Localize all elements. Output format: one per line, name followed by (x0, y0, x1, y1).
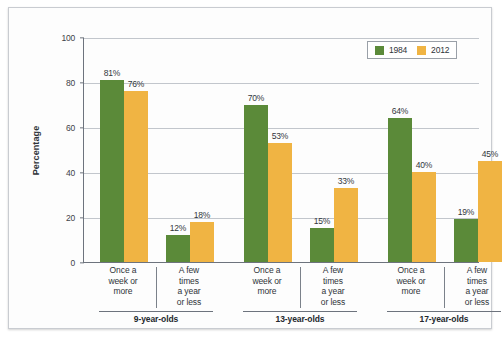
bar-value-label: 33% (338, 176, 354, 186)
legend-label: 2012 (431, 45, 449, 55)
y-tick-mark (80, 172, 84, 173)
legend-item[interactable]: 2012 (417, 45, 449, 55)
group-rule (99, 311, 213, 312)
category-label-line: A few (467, 265, 487, 276)
chart-page: Percentage 020406080100 81%12%70%15%64%1… (0, 0, 502, 339)
bar: 45% (478, 161, 502, 262)
bar-value-label: 18% (194, 210, 210, 220)
group-label-text: 9-year-olds (134, 314, 178, 324)
category-label: A fewtimesa yearor less (301, 265, 365, 307)
bar: 15% (310, 228, 334, 262)
gridline (84, 38, 479, 39)
y-tick-mark (80, 37, 84, 38)
category-label-line: a year (177, 286, 200, 297)
category-label-line: week or (108, 276, 137, 287)
y-tick-mark (80, 217, 84, 218)
category-separator (300, 267, 301, 308)
bar-value-label: 81% (104, 68, 120, 78)
category-label-line: times (323, 276, 343, 287)
chart-frame: Percentage 020406080100 81%12%70%15%64%1… (8, 7, 492, 329)
category-label-line: a year (465, 286, 488, 297)
group-rule (387, 311, 501, 312)
bar: 81% (100, 80, 124, 262)
bar-value-label: 70% (248, 93, 264, 103)
y-tick-label: 20 (66, 213, 75, 223)
bar-value-label: 15% (314, 216, 330, 226)
group-rule (243, 311, 357, 312)
bar-value-label: 40% (416, 160, 432, 170)
bar-value-label: 64% (392, 106, 408, 116)
category-label-line: Once a (398, 265, 425, 276)
group-label-text: 13-year-olds (276, 314, 325, 324)
y-tick-label: 100 (61, 33, 75, 43)
group-label: 9-year-olds (99, 311, 213, 324)
category-labels: Once aweek ormoreA fewtimesa yearor less… (83, 265, 479, 311)
bar: 40% (412, 172, 436, 262)
category-label-line: times (467, 276, 487, 287)
category-separator (156, 267, 157, 308)
category-label-line: times (179, 276, 199, 287)
y-tick-mark (80, 127, 84, 128)
category-label-line: more (258, 286, 277, 297)
bar-value-label: 12% (170, 223, 186, 233)
bar: 64% (388, 118, 412, 262)
bar: 12% (166, 235, 190, 262)
bar-value-label: 45% (482, 149, 498, 159)
category-label-line: A few (323, 265, 343, 276)
legend-label: 1984 (389, 45, 407, 55)
y-tick-label: 0 (70, 258, 75, 268)
y-tick-label: 40 (66, 168, 75, 178)
group-label: 13-year-olds (243, 311, 357, 324)
y-tick-label: 80 (66, 78, 75, 88)
bar: 76% (124, 91, 148, 262)
category-label-line: or less (177, 297, 201, 308)
category-label: Once aweek ormore (235, 265, 299, 297)
group-label-text: 17-year-olds (420, 314, 469, 324)
legend-swatch-icon (375, 46, 384, 55)
bar-value-label: 53% (272, 131, 288, 141)
bar-value-label: 19% (458, 207, 474, 217)
bar: 33% (334, 188, 358, 262)
category-label-line: a year (321, 286, 344, 297)
category-label-line: Once a (254, 265, 281, 276)
legend-swatch-icon (417, 46, 426, 55)
category-label-line: or less (465, 297, 489, 308)
y-tick-mark (80, 82, 84, 83)
bar: 53% (268, 143, 292, 262)
category-label: A fewtimesa yearor less (157, 265, 221, 307)
category-label: A fewtimesa yearor less (445, 265, 502, 307)
bar: 70% (244, 105, 268, 263)
y-tick-label: 60 (66, 123, 75, 133)
category-label-line: Once a (110, 265, 137, 276)
category-label: Once aweek ormore (91, 265, 155, 297)
bar: 19% (454, 219, 478, 262)
plot-area: 020406080100 81%12%70%15%64%19%76%18%53%… (83, 38, 479, 263)
category-label-line: more (402, 286, 421, 297)
category-label-line: A few (179, 265, 199, 276)
y-axis-label: Percentage (29, 38, 43, 263)
category-label: Once aweek ormore (379, 265, 443, 297)
group-label: 17-year-olds (387, 311, 501, 324)
group-labels: 9-year-olds13-year-olds17-year-olds (83, 311, 479, 333)
category-label-line: week or (252, 276, 281, 287)
category-label-line: or less (321, 297, 345, 308)
category-label-line: week or (396, 276, 425, 287)
y-tick-mark (80, 262, 84, 263)
legend-item[interactable]: 1984 (375, 45, 407, 55)
bar: 18% (190, 222, 214, 263)
bar-value-label: 76% (128, 79, 144, 89)
category-label-line: more (114, 286, 133, 297)
legend: 19842012 (367, 41, 457, 59)
category-separator (444, 267, 445, 308)
